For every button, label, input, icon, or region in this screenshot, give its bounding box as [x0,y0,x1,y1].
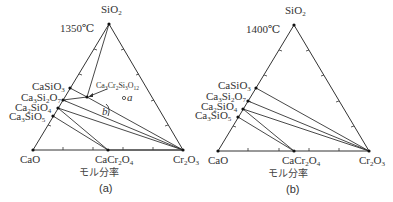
point-a-label: a [127,91,133,103]
label-ca3sio5-a: Ca3SiO5 [9,110,46,124]
vertex-label-sio2-b: SiO2 [285,4,306,18]
edge-ticks-b [233,50,354,151]
ternary-diagram-a: a b SiO2 1350℃ CaO CaCr2O4 Cr2O3 CaSiO3 … [9,3,199,194]
label-cacr2o4-b: CaCr2O4 [282,154,321,168]
temperature-label-a: 1350℃ [60,22,94,34]
label-ca3sio5-b: Ca3SiO5 [195,109,232,123]
vertex-label-cao-a: CaO [20,153,40,165]
label-ca3cr2si3o12-a: Ca3Cr2Si3O12 [96,81,139,91]
axis-label-b: モル分率 [268,167,308,179]
tie-lines-b [238,88,369,151]
label-cacr2o4-a: CaCr2O4 [95,153,134,167]
caption-b: (b) [286,183,299,195]
vertex-label-sio2-a: SiO2 [101,3,122,17]
caption-a: (a) [99,182,112,194]
ternary-diagram-b: SiO2 1400℃ CaO CaCr2O4 Cr2O3 CaSiO3 Ca3S… [195,4,385,195]
phase-diagram-figure: a b SiO2 1350℃ CaO CaCr2O4 Cr2O3 CaSiO3 … [0,0,393,202]
arrow-head-icon [88,93,93,97]
vertex-label-cr2o3-a: Cr2O3 [173,153,199,167]
point-b-label: b [102,105,108,117]
temperature-label-b: 1400℃ [246,23,280,35]
axis-label-a: モル分率 [79,166,119,178]
point-a-marker [122,96,125,99]
vertex-label-cao-b: CaO [208,154,228,166]
vertex-label-cr2o3-b: Cr2O3 [359,154,385,168]
